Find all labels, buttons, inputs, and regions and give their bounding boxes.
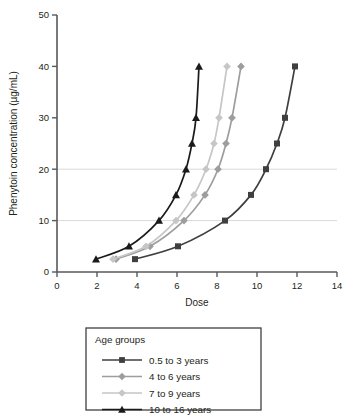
chart-canvas: 02468101214 01020304050 Phenytoin concen… [0,0,345,417]
marker-square [263,166,269,172]
legend-item-label: 0.5 to 3 years [149,355,208,366]
series-line [96,66,199,259]
y-axis-title: Phenytoin concentration (µg/mL) [8,71,19,216]
marker-triangle [172,191,180,198]
x-axis-title: Dose [185,297,209,308]
legend-item-label: 4 to 6 years [149,371,200,382]
marker-diamond [215,114,223,122]
marker-triangle [195,62,203,69]
y-tick-label: 10 [38,215,49,226]
marker-diamond [190,191,198,199]
marker-square [132,256,138,262]
marker-diamond [222,140,230,148]
marker-triangle [125,242,133,249]
x-tick-label: 14 [332,280,343,291]
marker-square [119,357,125,363]
marker-diamond [210,140,218,148]
y-tick-label: 50 [38,9,49,20]
x-tick-label: 8 [214,280,219,291]
marker-diamond [223,63,231,71]
y-tick-label: 30 [38,112,49,123]
series-2 [112,63,245,263]
marker-square [282,115,288,121]
marker-square [222,218,228,224]
marker-triangle [188,140,196,147]
y-tick-labels: 01020304050 [38,9,49,277]
axes [57,15,337,272]
series-4 [92,62,203,262]
marker-diamond [214,165,222,173]
marker-triangle [192,114,200,121]
y-tick-label: 40 [38,61,49,72]
chart-legend: Age groups0.5 to 3 years4 to 6 years7 to… [86,328,261,415]
marker-square [248,192,254,198]
y-tick-label: 0 [44,266,49,277]
legend-item-label: 10 to 16 years [149,404,211,415]
x-tick-label: 0 [54,280,59,291]
marker-diamond [237,63,245,71]
marker-diamond [228,114,236,122]
marker-square [175,243,181,249]
legend-title: Age groups [95,334,145,345]
x-tick-label: 6 [174,280,179,291]
legend-item-label: 7 to 9 years [149,388,200,399]
x-tick-label: 4 [134,280,139,291]
series-1 [132,63,298,262]
x-tick-labels: 02468101214 [54,280,342,291]
series-line [135,66,295,259]
x-tick-label: 10 [252,280,263,291]
phenytoin-dose-response-chart: 02468101214 01020304050 Phenytoin concen… [0,0,345,417]
marker-diamond [202,165,210,173]
y-tick-label: 20 [38,164,49,175]
x-tick-label: 2 [94,280,99,291]
marker-square [274,141,280,147]
x-tick-label: 12 [292,280,303,291]
marker-square [292,63,298,69]
data-series-group [92,62,298,263]
